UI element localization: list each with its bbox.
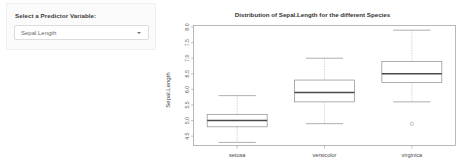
predictor-control-panel: Select a Predictor Variable: Sepal.Lengt… [6, 3, 156, 50]
x-tick-label: setosa [229, 152, 246, 158]
boxplot-box [295, 58, 355, 123]
y-tick-label: 7.5 [184, 39, 190, 46]
boxplot-svg: Sepal.Length 4.55.05.56.06.57.07.58.0 se… [160, 0, 465, 165]
boxplot-box [382, 30, 442, 125]
y-tick-label: 8.0 [184, 23, 190, 30]
x-axis-labels: setosaversicolorvirginica [229, 152, 423, 158]
boxplot-panel: Distribution of Sepal.Length for the dif… [160, 0, 465, 165]
predictor-select-value: Sepal.Length [21, 30, 56, 36]
x-tick-label: virginica [402, 152, 423, 158]
y-tick-label: 6.0 [184, 86, 190, 93]
y-tick-label: 4.5 [184, 132, 190, 139]
x-axis-ticks [237, 146, 412, 149]
predictor-select[interactable]: Sepal.Length [14, 25, 149, 40]
y-tick-label: 5.5 [184, 101, 190, 108]
boxplot-box [207, 96, 267, 143]
chevron-down-icon[interactable] [137, 32, 141, 34]
outlier-point [410, 122, 413, 125]
x-tick-label: versicolor [313, 152, 337, 158]
y-tick-label: 6.5 [184, 70, 190, 77]
box-series [207, 30, 442, 142]
predictor-select-label: Select a Predictor Variable: [15, 12, 96, 19]
y-axis-title: Sepal.Length [165, 72, 171, 107]
app-root: Select a Predictor Variable: Sepal.Lengt… [0, 0, 465, 165]
y-axis-ticks: 4.55.05.56.06.57.07.58.0 [184, 23, 194, 139]
y-tick-label: 5.0 [184, 117, 190, 124]
y-tick-label: 7.0 [184, 55, 190, 62]
